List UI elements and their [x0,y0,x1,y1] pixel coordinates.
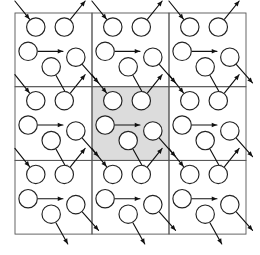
particle-p2-r1c0 [55,92,73,110]
particle-p1-r1c2 [181,92,199,110]
particle-p3-r0c0 [19,42,37,60]
particle-p5-r2c0 [42,205,60,223]
particle-p5-r0c1 [119,58,137,76]
particle-p2-r0c2 [209,18,227,36]
particle-p3-r1c0 [19,116,37,134]
particle-p3-r1c2 [173,116,191,134]
particle-p5-r2c1 [119,205,137,223]
particle-p2-r2c2 [209,165,227,183]
particle-p2-r2c1 [132,165,150,183]
particle-p5-r0c2 [196,58,214,76]
pbc-figure [0,0,260,255]
particle-p5-r1c2 [196,131,214,149]
particle-p4-r2c2 [221,195,239,213]
particle-p1-r2c1 [104,165,122,183]
pbc-diagram-canvas [0,0,260,255]
particle-p1-r1c0 [27,92,45,110]
particle-p2-r0c1 [132,18,150,36]
particle-p1-r0c0 [27,18,45,36]
particle-p4-r1c1 [144,122,162,140]
cells-layer [15,13,246,234]
particle-p2-r2c0 [55,165,73,183]
particle-p4-r1c2 [221,122,239,140]
particle-p4-r2c1 [144,195,162,213]
particle-p3-r2c2 [173,190,191,208]
particle-p1-r0c1 [104,18,122,36]
particle-p4-r1c0 [67,122,85,140]
particle-p4-r0c1 [144,48,162,66]
particle-p4-r0c2 [221,48,239,66]
particle-p3-r2c1 [96,190,114,208]
particle-p2-r0c0 [55,18,73,36]
particle-p5-r2c2 [196,205,214,223]
particle-p1-r2c2 [181,165,199,183]
particle-p3-r2c0 [19,190,37,208]
particle-p3-r1c1 [96,116,114,134]
particle-p4-r0c0 [67,48,85,66]
particle-p2-r1c2 [209,92,227,110]
particle-p1-r1c1 [104,92,122,110]
particle-p1-r2c0 [27,165,45,183]
particle-p2-r1c1 [132,92,150,110]
particle-p1-r0c2 [181,18,199,36]
particle-p5-r1c1 [119,131,137,149]
particle-p3-r0c2 [173,42,191,60]
particle-p4-r2c0 [67,195,85,213]
particle-p5-r1c0 [42,131,60,149]
particle-p3-r0c1 [96,42,114,60]
particle-p5-r0c0 [42,58,60,76]
